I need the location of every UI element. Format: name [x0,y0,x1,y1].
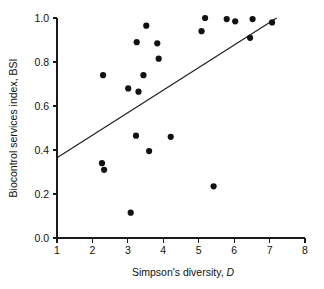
x-tick-label: 6 [231,244,237,256]
data-point [198,28,204,34]
x-axis-title: Simpson's diversity, D [132,266,235,278]
data-point [140,72,146,78]
y-tick-label: 0.4 [34,144,49,156]
data-points-group [99,15,275,216]
x-tick-label: 1 [54,244,60,256]
data-point [125,85,131,91]
chart-figure: 0.00.20.40.60.81.0 12345678 Simpson's di… [0,0,324,289]
data-point [146,148,152,154]
data-point [99,160,105,166]
data-point [135,89,141,95]
data-point [100,72,106,78]
y-tick-label: 0.2 [34,188,49,200]
x-axis-title-symbol: D [227,266,235,278]
x-tick-label: 2 [90,244,96,256]
scatter-plot-canvas: 0.00.20.40.60.81.0 12345678 Simpson's di… [0,0,324,289]
x-tick-label: 8 [302,244,308,256]
data-point [269,19,275,25]
data-point [133,133,139,139]
data-point [168,134,174,140]
x-tick-label: 5 [196,244,202,256]
data-point [249,16,255,22]
x-tick-label: 3 [125,244,131,256]
data-point [202,15,208,21]
x-axis-ticks: 12345678 [54,238,308,256]
y-axis-title: Biocontrol services index, BSI [7,59,19,198]
y-tick-label: 0.8 [34,56,49,68]
regression-line [57,18,277,158]
x-tick-label: 7 [267,244,273,256]
x-axis-title-text: Simpson's diversity, [132,266,227,278]
data-point [232,18,238,24]
data-point [143,23,149,29]
data-point [134,39,140,45]
y-axis-ticks: 0.00.20.40.60.81.0 [34,12,57,244]
data-point [224,16,230,22]
data-point [154,40,160,46]
data-point [156,56,162,62]
axes-group [57,18,305,238]
data-point [128,210,134,216]
data-point [210,183,216,189]
y-tick-label: 0.6 [34,100,49,112]
regression-line-group [57,18,277,158]
x-tick-label: 4 [160,244,166,256]
y-tick-label: 1.0 [34,12,49,24]
data-point [101,167,107,173]
data-point [247,35,253,41]
y-tick-label: 0.0 [34,232,49,244]
